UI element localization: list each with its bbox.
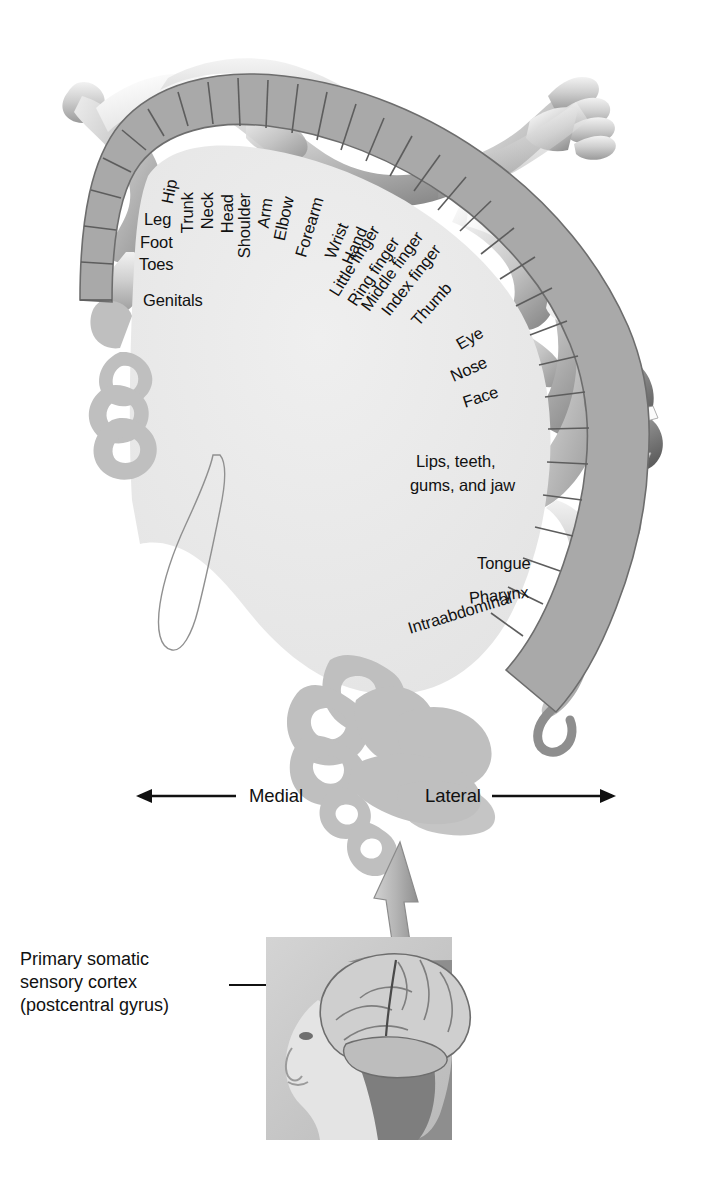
right-arrow-icon: [492, 789, 616, 803]
caption-line-2: sensory cortex: [20, 971, 169, 994]
label-medial: Medial: [249, 786, 303, 807]
figure-canvas: Hip Leg Foot Toes Genitals Trunk Neck He…: [0, 0, 710, 1192]
label-shoulder: Shoulder: [235, 193, 253, 258]
left-arrow-icon: [136, 789, 236, 803]
caption-line-1: Primary somatic: [20, 948, 169, 971]
label-genitals: Genitals: [143, 291, 203, 309]
label-lips-teeth-gums-jaw-line1: Lips, teeth,: [416, 452, 496, 470]
caption-block: Primary somatic sensory cortex (postcent…: [20, 948, 169, 1017]
head-brain-photo: [266, 937, 470, 1140]
label-leg: Leg: [144, 210, 171, 228]
label-trunk: Trunk: [178, 192, 196, 233]
label-toes: Toes: [139, 255, 173, 273]
label-lateral: Lateral: [425, 786, 481, 807]
label-tongue: Tongue: [477, 554, 531, 572]
label-head: Head: [218, 194, 236, 233]
label-foot: Foot: [140, 233, 173, 251]
caption-line-3: (postcentral gyrus): [20, 994, 169, 1017]
label-neck: Neck: [198, 192, 216, 229]
label-lips-teeth-gums-jaw-line2: gums, and jaw: [410, 476, 515, 494]
